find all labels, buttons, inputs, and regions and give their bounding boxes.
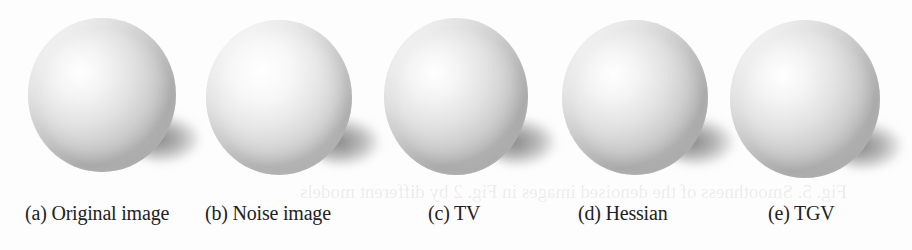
sphere-image-tgv — [730, 20, 880, 178]
panel-c — [370, 0, 550, 200]
caption-d: (d) Hessian — [578, 202, 667, 225]
sphere-image-hessian — [562, 20, 708, 175]
figure: Fig. 5. Smoothness of the denoised image… — [0, 0, 912, 250]
panel-e — [712, 0, 912, 200]
sphere-image-noisy — [206, 20, 352, 175]
caption-c: (c) TV — [428, 202, 480, 225]
caption-a: (a) Original image — [25, 202, 169, 225]
panel-a — [0, 0, 180, 200]
caption-b: (b) Noise image — [205, 202, 331, 225]
panel-d — [550, 0, 730, 200]
caption-e: (e) TGV — [768, 202, 835, 225]
panel-b — [180, 0, 360, 200]
sphere-image-tv — [384, 18, 528, 175]
sphere-image-original — [28, 18, 176, 172]
